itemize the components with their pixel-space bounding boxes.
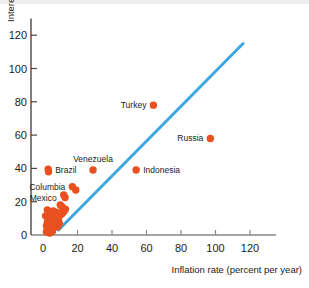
point-label-russia: Russia (177, 133, 203, 143)
data-point (62, 205, 69, 212)
data-point (207, 135, 214, 142)
x-tick-label: 20 (71, 242, 83, 254)
y-axis-title: Interest rate percent per year (5, 0, 16, 22)
scatter-plot: 020406080100120 020406080100120 TurkeyRu… (0, 0, 309, 288)
y-axis-ticks (31, 35, 37, 202)
data-point (45, 168, 52, 175)
x-tick-label: 120 (241, 242, 259, 254)
point-label-brazil: Brazil (55, 165, 76, 175)
y-tick-label: 80 (15, 96, 27, 108)
data-point (72, 186, 79, 193)
y-tick-label: 100 (9, 63, 27, 75)
y-tick-label: 40 (15, 162, 27, 174)
y-tick-label: 0 (21, 229, 27, 241)
x-tick-label: 40 (106, 242, 118, 254)
data-point (46, 229, 53, 236)
data-point (54, 223, 61, 230)
x-tick-label: 60 (140, 242, 152, 254)
point-annotations: TurkeyRussiaVenezuelaIndonesiaBrazilColu… (29, 100, 203, 203)
figure-container: 020406080100120 020406080100120 TurkeyRu… (0, 0, 309, 288)
axis-lines (31, 19, 276, 235)
forty-five-degree-line (59, 44, 244, 230)
y-tick-label: 20 (15, 196, 27, 208)
data-point (150, 101, 157, 108)
point-label-columbia: Columbia (29, 182, 65, 192)
data-point (89, 166, 96, 173)
y-tick-label: 60 (15, 129, 27, 141)
data-point (132, 166, 139, 173)
data-point (42, 212, 49, 219)
data-point (61, 194, 68, 201)
x-axis-ticks (78, 230, 251, 235)
reference-line (59, 44, 244, 230)
point-label-turkey: Turkey (121, 100, 147, 110)
point-label-mexico: Mexico (30, 193, 57, 203)
x-tick-label: 0 (40, 242, 46, 254)
y-axis-tick-labels: 020406080100120 (9, 29, 27, 241)
x-axis-title: Inflation rate (percent per year) (172, 264, 302, 275)
point-label-indonesia: Indonesia (143, 165, 180, 175)
x-tick-label: 80 (175, 242, 187, 254)
y-tick-label: 120 (9, 29, 27, 41)
point-label-venezuela: Venezuela (73, 154, 113, 164)
x-tick-label: 100 (206, 242, 224, 254)
x-axis-tick-labels: 020406080100120 (40, 242, 259, 254)
